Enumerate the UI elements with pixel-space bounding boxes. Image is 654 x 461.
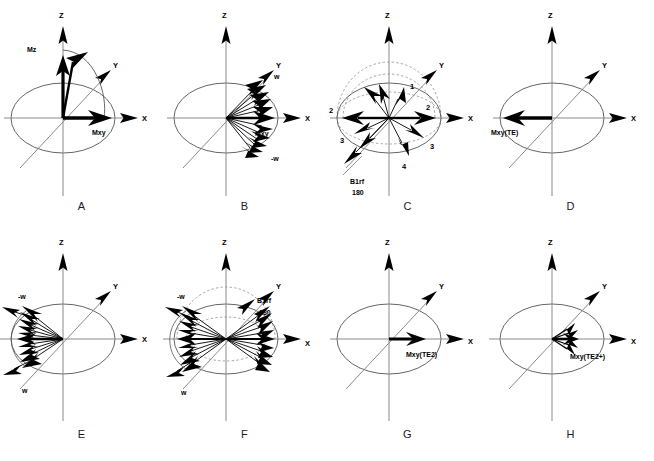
w-minus-label: -w bbox=[271, 155, 279, 162]
w-plus-label: w bbox=[180, 389, 187, 396]
y-axis-arrowhead bbox=[584, 70, 600, 85]
y-axis-arrowhead bbox=[584, 291, 600, 306]
left-isochromat-fan bbox=[177, 306, 226, 372]
panel-letter-h: H bbox=[489, 428, 652, 440]
vector-number-2-right: 2 bbox=[426, 103, 430, 112]
panel-letter-c: C bbox=[326, 200, 489, 212]
w-plus-arrowhead bbox=[3, 365, 22, 375]
mxy-te-label: Mxy(TE) bbox=[491, 129, 518, 137]
x-axis-label: X bbox=[305, 114, 310, 123]
tilted-vector-arrowhead bbox=[66, 52, 88, 70]
y-axis bbox=[509, 299, 593, 389]
panel-g: Z X Y Mxy(TE2) G bbox=[326, 231, 489, 461]
mz-label: Mz bbox=[27, 46, 37, 53]
panel-letter-b: B bbox=[163, 200, 326, 212]
mxy-label: Mxy bbox=[255, 130, 269, 138]
panel-e: Z X Y bbox=[0, 231, 163, 461]
flip-angle-label: 180 bbox=[352, 189, 364, 196]
y-axis-arrowhead bbox=[421, 291, 437, 306]
panel-letter-d: D bbox=[489, 200, 652, 212]
flip-angle-label: 180 bbox=[259, 309, 271, 316]
vector-number-3-left: 3 bbox=[340, 136, 344, 145]
y-axis-label: Y bbox=[113, 61, 118, 70]
w-minus-label: -w bbox=[18, 293, 26, 300]
y-axis-arrowhead bbox=[95, 291, 111, 306]
z-axis-label: Z bbox=[548, 11, 553, 20]
panel-a: Z X Y Mz Mxy A bbox=[0, 0, 163, 230]
b1rf-arrowhead bbox=[237, 299, 255, 315]
w-minus-arrowhead bbox=[165, 307, 183, 318]
w-plus-label: w bbox=[273, 73, 280, 80]
panel-c: Z X Y 1 2 2 bbox=[326, 0, 489, 230]
panel-letter-e: E bbox=[0, 428, 163, 440]
y-axis bbox=[346, 299, 430, 389]
y-axis-label: Y bbox=[276, 61, 281, 70]
b1rf-axis bbox=[343, 156, 362, 175]
w-plus-label: w bbox=[21, 387, 28, 394]
y-axis-label: Y bbox=[113, 282, 118, 291]
vector-number-2-left: 2 bbox=[329, 106, 333, 115]
x-axis-label: X bbox=[468, 114, 473, 123]
panel-letter-a: A bbox=[0, 200, 163, 212]
z-axis-label: Z bbox=[385, 11, 390, 20]
vector-number-1: 1 bbox=[410, 82, 414, 91]
y-axis-label: Y bbox=[602, 282, 607, 291]
vector-number-4: 4 bbox=[402, 162, 407, 171]
x-axis-label: X bbox=[631, 337, 636, 346]
w-minus-label: -w bbox=[177, 293, 185, 300]
z-axis-label: Z bbox=[59, 238, 64, 247]
y-axis-label: Y bbox=[439, 61, 444, 70]
mxy-label: Mxy bbox=[92, 129, 106, 137]
panel-letter-f: F bbox=[163, 428, 326, 440]
b1rf-label: B1rf bbox=[257, 297, 272, 304]
x-axis-label: X bbox=[305, 339, 310, 348]
flipped-isochromats: 1 2 2 3 3 4 bbox=[329, 82, 436, 171]
vector-number-3-right: 3 bbox=[430, 142, 434, 151]
isochromat-fan bbox=[226, 80, 275, 158]
mxy-te2-label: Mxy(TE2) bbox=[406, 351, 437, 359]
mxy-te2plus-label: Mxy(TE2+) bbox=[570, 353, 605, 361]
z-axis-label: Z bbox=[59, 11, 64, 20]
w-plus-arrowhead bbox=[166, 367, 185, 377]
panel-d: Z X Y Mxy(TE) D bbox=[489, 0, 652, 230]
spin-echo-figure: Z X Y Mz Mxy A bbox=[0, 0, 654, 461]
y-axis-label: Y bbox=[602, 61, 607, 70]
z-axis-label: Z bbox=[548, 238, 553, 247]
y-axis-label: Y bbox=[439, 282, 444, 291]
x-axis-label: X bbox=[142, 335, 147, 344]
b1rf-label: B1rf bbox=[350, 178, 365, 185]
x-axis-label: X bbox=[631, 114, 636, 123]
panel-b: Z X Y bbox=[163, 0, 326, 230]
panel-letter-g: G bbox=[326, 428, 489, 440]
z-axis-label: Z bbox=[222, 11, 227, 20]
y-axis-label: Y bbox=[276, 282, 281, 291]
z-axis-label: Z bbox=[222, 238, 227, 247]
z-axis-label: Z bbox=[385, 238, 390, 247]
panel-h: Z X Y Mxy(TE2+) H bbox=[489, 231, 652, 461]
x-axis-label: X bbox=[142, 114, 147, 123]
x-axis-label: X bbox=[468, 337, 473, 346]
panel-f: Z X Y bbox=[163, 231, 326, 461]
y-axis-arrowhead bbox=[421, 70, 437, 85]
